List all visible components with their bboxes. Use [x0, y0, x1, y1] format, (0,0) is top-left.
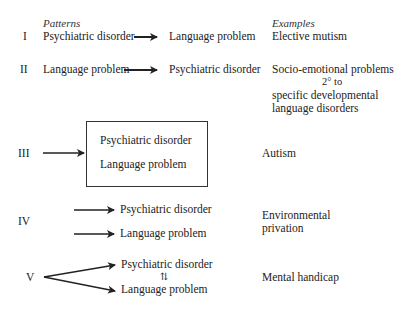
box-iii [87, 122, 208, 187]
numeral-iii: III [18, 148, 30, 160]
row-ii-example-line-4: language disorders [272, 103, 359, 115]
row-iv-target-1: Psychiatric disorder [120, 204, 212, 216]
row-ii-example-line-2: 2° to [322, 77, 342, 88]
row-iii-box-line-1: Psychiatric disorder [100, 135, 192, 147]
row-v-example: Mental handicap [262, 272, 339, 284]
row-v-target-2: Language problem [121, 284, 208, 296]
patterns-header: Patterns [43, 18, 80, 29]
row-ii-example-line-1: Socio-emotional problems [272, 64, 394, 76]
numeral-i: I [23, 31, 27, 43]
bidirectional-arrow-icon: ⇅ [160, 272, 168, 282]
row-i-left: Psychiatric disorder [43, 31, 135, 43]
row-i-right: Language problem [169, 31, 256, 43]
arrow-v-bottom [44, 277, 115, 291]
arrow-v-top [44, 265, 115, 277]
numeral-v: V [26, 272, 34, 284]
numeral-ii: II [20, 64, 28, 76]
examples-header: Examples [272, 18, 315, 29]
row-iv-example-line-1: Environmental [262, 210, 330, 222]
row-i-example: Elective mutism [272, 31, 347, 43]
row-iii-example: Autism [262, 148, 296, 160]
row-iv-target-2: Language problem [120, 228, 207, 240]
row-v-target-1: Psychiatric disorder [121, 259, 213, 271]
numeral-iv: IV [18, 216, 30, 228]
row-ii-left: Language problem [43, 64, 130, 76]
row-ii-right: Psychiatric disorder [169, 64, 261, 76]
row-iii-box-line-2: Language problem [100, 159, 187, 171]
row-iv-example-line-2: privation [262, 223, 304, 235]
row-ii-example-line-3: specific developmental [272, 90, 378, 102]
